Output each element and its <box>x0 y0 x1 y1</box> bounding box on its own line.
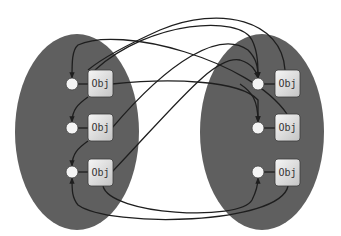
object-label: Obj <box>278 78 296 89</box>
reference-circle <box>252 166 264 178</box>
object-graph-diagram: Obj Obj Obj Obj Obj Obj <box>0 0 341 236</box>
reference-circle <box>252 78 264 90</box>
reference-circle <box>66 122 78 134</box>
reference-circle <box>252 122 264 134</box>
object-label: Obj <box>91 167 109 178</box>
object-label: Obj <box>278 122 296 133</box>
object-label: Obj <box>91 122 109 133</box>
reference-circle <box>66 166 78 178</box>
reference-circle <box>66 78 78 90</box>
object-label: Obj <box>278 167 296 178</box>
object-label: Obj <box>91 78 109 89</box>
